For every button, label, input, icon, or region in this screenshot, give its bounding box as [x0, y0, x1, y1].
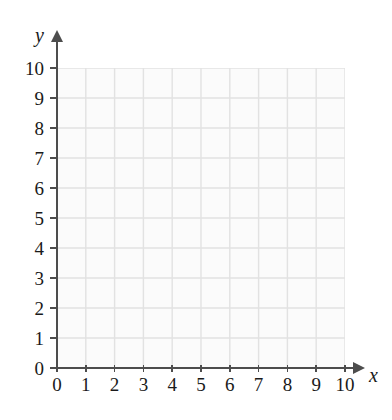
x-tick-8: [287, 365, 289, 372]
x-tick-7: [258, 365, 260, 372]
y-tick-label-0: 0: [35, 359, 45, 378]
x-tick-4: [171, 365, 173, 372]
x-tick-label-1: 1: [81, 375, 91, 394]
y-tick-label-1: 1: [35, 329, 45, 348]
x-axis-line: [56, 367, 356, 369]
y-tick-3: [50, 277, 57, 279]
x-tick-0: [56, 365, 58, 372]
x-tick-3: [143, 365, 145, 372]
y-tick-5: [50, 217, 57, 219]
y-tick-label-10: 10: [25, 59, 44, 78]
y-tick-label-9: 9: [35, 89, 45, 108]
y-tick-9: [50, 97, 57, 99]
y-tick-label-2: 2: [35, 299, 45, 318]
y-axis-label: y: [35, 25, 44, 45]
x-tick-2: [114, 365, 116, 372]
y-tick-1: [50, 337, 57, 339]
y-tick-8: [50, 127, 57, 129]
y-tick-label-7: 7: [35, 149, 45, 168]
x-tick-label-6: 6: [225, 375, 235, 394]
x-tick-label-7: 7: [254, 375, 264, 394]
y-tick-label-3: 3: [35, 269, 45, 288]
y-tick-6: [50, 187, 57, 189]
y-tick-label-4: 4: [35, 239, 45, 258]
x-tick-5: [200, 365, 202, 372]
y-tick-7: [50, 157, 57, 159]
y-tick-2: [50, 307, 57, 309]
x-tick-9: [315, 365, 317, 372]
x-tick-6: [229, 365, 231, 372]
coordinate-grid-figure: 012345678910 012345678910 y x: [0, 0, 392, 420]
y-tick-4: [50, 247, 57, 249]
y-tick-label-6: 6: [35, 179, 45, 198]
arrow-up-icon: [51, 30, 63, 42]
y-tick-label-5: 5: [35, 209, 45, 228]
y-tick-10: [50, 67, 57, 69]
x-tick-1: [85, 365, 87, 372]
x-tick-label-0: 0: [52, 375, 62, 394]
y-tick-label-8: 8: [35, 119, 45, 138]
x-tick-label-10: 10: [336, 375, 355, 394]
x-tick-label-2: 2: [110, 375, 120, 394]
y-axis-line: [56, 40, 58, 370]
x-tick-label-8: 8: [283, 375, 293, 394]
x-tick-10: [344, 365, 346, 372]
grid-lines: [57, 68, 345, 368]
x-tick-label-4: 4: [167, 375, 177, 394]
x-tick-label-5: 5: [196, 375, 206, 394]
arrow-right-icon: [353, 362, 365, 374]
x-tick-label-9: 9: [311, 375, 321, 394]
x-tick-label-3: 3: [139, 375, 149, 394]
plot-area: [57, 68, 345, 368]
x-axis-label: x: [369, 365, 378, 385]
